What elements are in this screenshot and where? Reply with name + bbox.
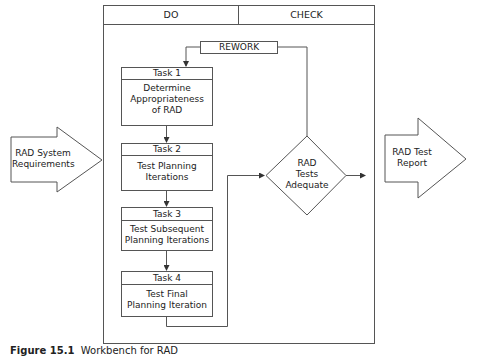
task3-title: Task 3 xyxy=(122,209,212,220)
caption-prefix: Figure 15.1 xyxy=(10,345,74,356)
output-line: RAD Test xyxy=(386,147,438,158)
task1-line: Appropriateness xyxy=(122,94,212,105)
rework-label: REWORK xyxy=(201,42,277,53)
task3-line: Planning Iterations xyxy=(122,235,212,246)
task2-line: Test Planning xyxy=(122,161,212,172)
task2-title: Task 2 xyxy=(122,144,212,155)
output-line: Report xyxy=(386,158,438,169)
task4-line: Test Final xyxy=(122,289,212,300)
input-line: RAD System xyxy=(12,148,74,159)
task3-body: Test Subsequent Planning Iterations xyxy=(122,224,212,246)
decision-to-rework-line xyxy=(277,47,307,136)
task1-line: of RAD xyxy=(122,105,212,116)
task4-body: Test Final Planning Iteration xyxy=(122,289,212,311)
column-header-do: DO xyxy=(104,9,238,20)
task2-body: Test Planning Iterations xyxy=(122,161,212,183)
input-label: RAD System Requirements xyxy=(12,148,74,170)
output-label: RAD Test Report xyxy=(386,147,438,169)
decision-line: RAD xyxy=(277,158,337,169)
rework-to-task1-line xyxy=(186,47,200,66)
task1-title: Task 1 xyxy=(122,68,212,79)
task2-line: Iterations xyxy=(122,172,212,183)
task4-line: Planning Iteration xyxy=(122,300,212,311)
figure-caption: Figure 15.1 Workbench for RAD xyxy=(10,345,178,356)
caption-text: Workbench for RAD xyxy=(81,345,178,356)
input-line: Requirements xyxy=(12,159,74,170)
task1-body: Determine Appropriateness of RAD xyxy=(122,83,212,116)
column-header-check: CHECK xyxy=(239,9,374,20)
task4-title: Task 4 xyxy=(122,273,212,284)
decision-label: RAD Tests Adequate xyxy=(277,158,337,191)
task1-line: Determine xyxy=(122,83,212,94)
decision-line: Tests xyxy=(277,169,337,180)
decision-line: Adequate xyxy=(277,180,337,191)
task3-line: Test Subsequent xyxy=(122,224,212,235)
